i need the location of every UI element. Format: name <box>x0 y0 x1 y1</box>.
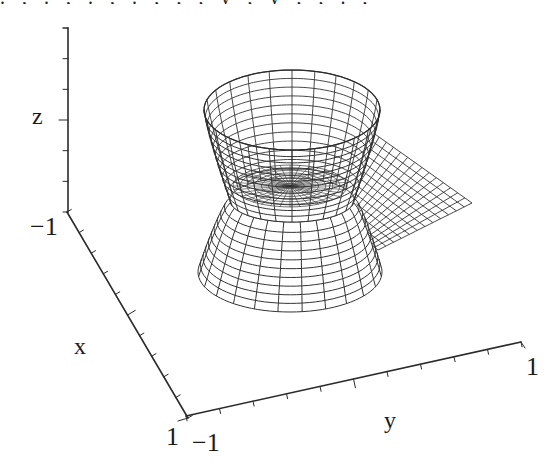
y-axis-tick <box>287 394 288 399</box>
x-axis-tick <box>152 354 156 357</box>
x-axis-tick <box>115 292 119 295</box>
y-axis-tick <box>354 379 356 388</box>
z-axis-label: z <box>32 104 43 128</box>
surface-plot-figure <box>0 0 555 473</box>
y-axis-tick <box>253 401 254 406</box>
x-axis-tick <box>140 333 144 336</box>
y-axis-tick <box>488 349 489 354</box>
y-axis-tick <box>454 357 455 362</box>
cropped-caption-text: . , . , . , . ; , , y , y , , . , <box>0 0 555 4</box>
x-axis-tick <box>164 374 168 377</box>
y-axis-min-label: −1 <box>192 430 220 456</box>
y-axis-label: y <box>384 408 396 432</box>
x-axis-tick <box>103 271 107 274</box>
x-axis-label: x <box>74 334 86 358</box>
x-axis-tick <box>176 395 180 398</box>
x-axis-tick <box>128 310 136 315</box>
y-axis-tick <box>421 364 422 369</box>
y-axis-tick <box>220 409 221 414</box>
x-axis-tick <box>79 230 83 233</box>
z-axis-min-label: −1 <box>30 214 58 240</box>
x-axis-max-label: 1 <box>166 424 179 450</box>
y-axis-tick <box>387 372 388 377</box>
x-axis-tick <box>91 251 95 254</box>
y-axis-max-label: 1 <box>526 354 539 380</box>
surface-upper-bowl-mesh <box>204 70 380 222</box>
y-axis-tick <box>320 386 321 391</box>
